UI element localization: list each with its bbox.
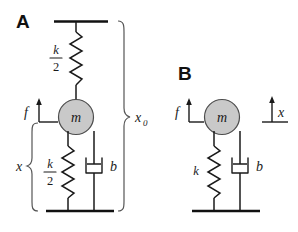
panel-a-upper-spring-numerator: k <box>53 43 59 57</box>
panel-a-x0-label: x 0 <box>134 110 148 128</box>
panel-a-upper-spring-denominator: 2 <box>53 60 59 74</box>
panel-b-x-arrowhead <box>269 96 275 103</box>
panel-a-x-label: x <box>15 159 23 174</box>
panel-a-upper-spring-label: k 2 <box>50 43 62 74</box>
panel-b-spring <box>208 146 220 198</box>
panel-a-lower-spring-label: k 2 <box>44 157 56 188</box>
panel-a-lower-spring <box>62 146 74 198</box>
panel-a-damper-label: b <box>110 159 117 174</box>
panel-a-x0-brace <box>118 21 130 211</box>
panel-a-force-arrow <box>36 98 58 122</box>
panel-a-x0-subscript: 0 <box>143 118 148 128</box>
panel-a-force-label: f <box>24 105 30 120</box>
panel-a-force-arrowhead <box>36 98 42 105</box>
panel-b-force-arrow <box>186 98 204 122</box>
mass-spring-damper-figure: A k 2 m f <box>0 0 298 232</box>
panel-a-upper-spring <box>70 32 82 85</box>
panel-b-x-label: x <box>277 105 285 120</box>
panel-a-x-brace <box>27 123 38 211</box>
panel-a-letter: A <box>16 11 30 32</box>
panel-b-mass-label: m <box>217 110 227 125</box>
figure-canvas: A k 2 m f <box>0 0 298 232</box>
panel-b-letter: B <box>178 63 192 84</box>
panel-a-lower-spring-numerator: k <box>47 157 53 171</box>
panel-a-mass-label: m <box>71 110 81 125</box>
panel-a-x0-base: x <box>134 110 142 125</box>
panel-a-lower-spring-denominator: 2 <box>47 174 53 188</box>
panel-b-force-label: f <box>175 105 181 120</box>
panel-a: A k 2 m f <box>15 11 148 211</box>
panel-b-damper-label: b <box>256 159 263 174</box>
panel-b: B m f k <box>175 63 288 211</box>
panel-b-spring-label: k <box>193 164 199 178</box>
panel-b-force-arrowhead <box>186 98 192 105</box>
